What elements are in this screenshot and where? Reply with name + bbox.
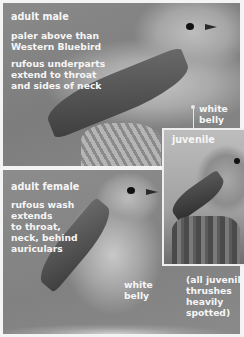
male-white-belly-line-2: belly <box>199 115 224 126</box>
male-note2-line-3: and sides of neck <box>11 81 101 92</box>
juvenile-note-line-4: spotted) <box>186 308 230 319</box>
juvenile-eye <box>234 158 240 164</box>
juvenile-note-line-3: heavily <box>186 297 223 308</box>
juvenile-note-line-1: (all juvenile <box>186 275 240 286</box>
male-note2-line-1: rufous underparts <box>11 59 105 70</box>
male-beak <box>205 24 217 30</box>
female-eye <box>127 187 135 194</box>
female-note-line-5: auriculars <box>11 244 63 255</box>
female-note-line-1: rufous wash <box>11 200 74 211</box>
female-white-belly-line-1: white <box>124 280 153 291</box>
male-eye <box>186 23 194 30</box>
wooden-post <box>172 216 240 264</box>
adult-female-label: adult female <box>11 182 79 193</box>
male-note-line-2: Western Bluebird <box>11 42 101 53</box>
juvenile-wing <box>167 170 229 222</box>
female-note-line-4: neck, behind <box>11 233 78 244</box>
adult-male-label: adult male <box>11 12 69 23</box>
male-note-line-1: paler above than <box>11 31 99 42</box>
female-beak <box>146 189 158 195</box>
belly-pointer-dot <box>191 105 195 109</box>
juvenile-inset-photo: juvenile <box>162 128 244 266</box>
female-note-line-3: to throat, <box>11 222 61 233</box>
juvenile-label: juvenile <box>172 135 215 146</box>
female-white-belly-line-2: belly <box>124 291 149 302</box>
female-note-line-2: extends <box>11 211 52 222</box>
male-note2-line-2: extend to throat <box>11 70 96 81</box>
male-white-belly-line-1: white <box>199 104 228 115</box>
seed-head <box>81 123 161 166</box>
juvenile-note-line-2: thrushes <box>186 286 232 297</box>
